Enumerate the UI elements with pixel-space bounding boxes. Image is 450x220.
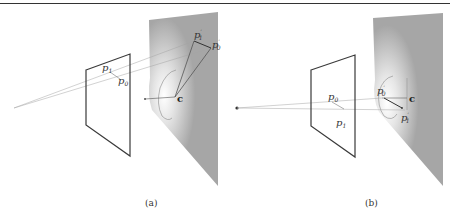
normal-tip-a — [144, 98, 146, 100]
label-p0prime-a: p′0 — [212, 38, 221, 51]
curved-surface-a — [149, 12, 218, 186]
label-p0prime-b: p′0 — [377, 84, 386, 97]
label-c-a: c — [177, 93, 183, 104]
label-c-b: c — [409, 93, 415, 104]
figure-canvas: p1 p0 p′1 p′0 c (a) p0 p1 p′0 p′1 c (b) — [0, 0, 450, 220]
label-p1prime-b: p′1 — [401, 111, 410, 124]
label-p0-a: p0 — [118, 75, 128, 87]
label-p1-b: p1 — [336, 117, 346, 129]
label-p1prime-a: p′1 — [194, 28, 203, 41]
ray-p0-b — [237, 98, 382, 108]
curved-surface-b — [373, 13, 443, 186]
panel-a: p1 p0 p′1 p′0 c (a) — [14, 12, 221, 208]
panel-b: p0 p1 p′0 p′1 c (b) — [235, 13, 443, 208]
label-p0-b: p0 — [328, 91, 338, 103]
caption-b: (b) — [365, 198, 378, 208]
point-p1prime-b — [401, 107, 403, 109]
image-plane-b — [311, 55, 355, 157]
caption-a: (a) — [145, 198, 157, 208]
label-p1-a: p1 — [102, 62, 112, 74]
segment-p0-p1-b — [332, 102, 344, 109]
